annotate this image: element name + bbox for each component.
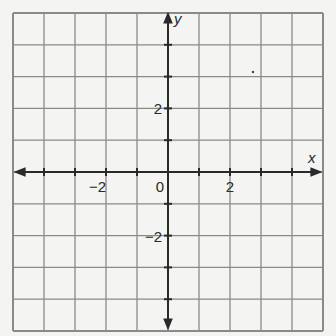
stray-dot (252, 71, 254, 73)
x-tick-label: 2 (226, 178, 234, 195)
axes (16, 14, 320, 328)
y-tick-label: 2 (154, 100, 162, 117)
y-tick-label: −2 (145, 228, 162, 245)
x-axis-label: x (307, 149, 316, 166)
x-tick-label: −2 (89, 178, 106, 195)
coordinate-grid: x y −2022−2 (0, 0, 336, 336)
x-tick-label: 0 (156, 178, 164, 195)
